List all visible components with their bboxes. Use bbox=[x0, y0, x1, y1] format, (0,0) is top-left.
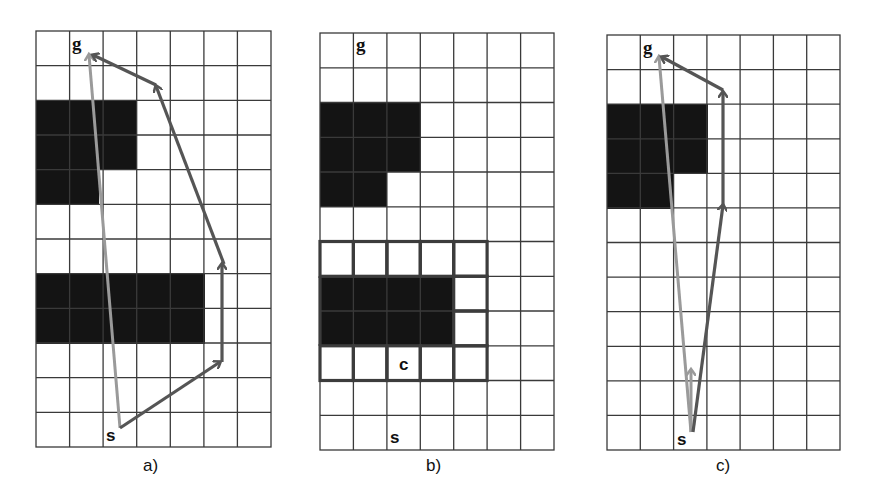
panel-c: g s c) bbox=[607, 35, 840, 475]
panel-a: g s a) bbox=[36, 31, 271, 475]
obstacle-upper bbox=[320, 102, 421, 207]
obstacle-upper bbox=[36, 100, 137, 205]
start-label-c: s bbox=[677, 430, 686, 449]
start-label-a: s bbox=[106, 426, 115, 445]
start-label-b: s bbox=[390, 428, 399, 447]
goal-label-a: g bbox=[72, 33, 82, 54]
panel-b: g c s b) bbox=[320, 33, 554, 475]
grid-a bbox=[36, 31, 271, 447]
caption-a: a) bbox=[143, 456, 158, 475]
obstacle-upper bbox=[607, 104, 708, 209]
goal-label-b: g bbox=[356, 34, 366, 55]
path-dark-c-seg3 bbox=[662, 57, 723, 90]
caption-c: c) bbox=[716, 456, 730, 475]
corner-label-b: c bbox=[399, 355, 408, 374]
path-dark-c-seg1 bbox=[693, 205, 723, 432]
goal-label-c: g bbox=[643, 37, 653, 58]
caption-b: b) bbox=[426, 456, 441, 475]
obstacle-lower bbox=[36, 274, 205, 344]
path-dark-a-seg3 bbox=[156, 86, 224, 264]
figure-canvas: g s a) bbox=[0, 0, 880, 497]
